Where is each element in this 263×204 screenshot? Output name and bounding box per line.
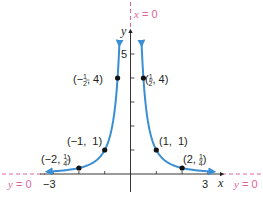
x-tick-label-neg3: −3 [43,178,56,190]
point-label-half-4: (12, 4) [145,73,168,87]
data-point [154,147,159,152]
point-label-neg1-1: (−1, 1) [67,135,102,147]
point-label-1-1: (1, 1) [159,135,188,147]
x-axis-label: x [217,176,224,190]
asymptote-label-y0-left: y = 0 [7,178,32,190]
data-point [115,75,120,80]
y-axis-label: y [120,24,127,38]
asymptote-label-x0: x = 0 [133,8,158,20]
data-point [76,165,81,170]
data-point [180,165,185,170]
x-tick-label-3: 3 [202,178,208,190]
data-point [102,147,107,152]
y-tick-label-5: 5 [121,48,127,60]
chart: y x 5 −3 3 x = 0 y = 0 y = 0 (−12, 4) (1… [0,0,263,204]
asymptote-label-y0-right: y = 0 [233,178,258,190]
